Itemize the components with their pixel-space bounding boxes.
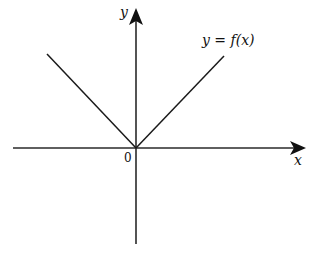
origin-label: 0 xyxy=(124,151,132,165)
y-axis-label: y xyxy=(120,4,128,20)
diagram-canvas: y y = f(x) 0 x xyxy=(0,0,318,255)
x-axis-label: x xyxy=(294,152,302,168)
graph-right-branch xyxy=(136,56,224,148)
function-label: y = f(x) xyxy=(202,32,255,48)
graph-left-branch xyxy=(47,54,136,148)
graph-svg xyxy=(0,0,318,255)
